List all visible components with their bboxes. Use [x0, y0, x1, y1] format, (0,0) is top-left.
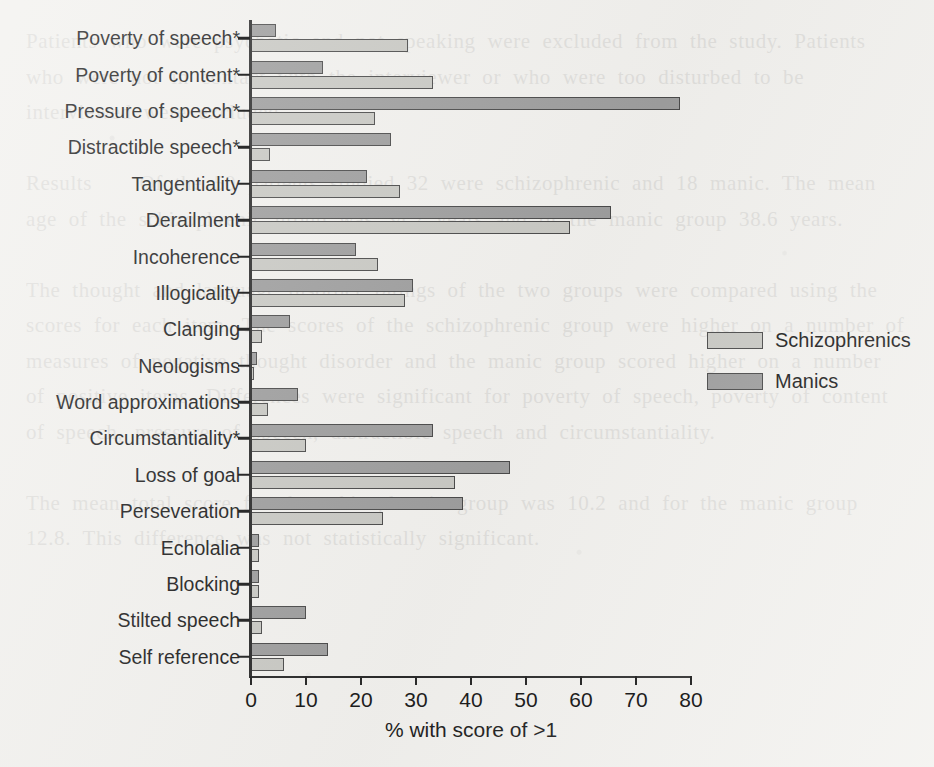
bar-schizophrenics — [251, 39, 408, 52]
x-axis-tick — [305, 676, 307, 685]
bar-manics — [251, 279, 413, 292]
bar-schizophrenics — [251, 76, 433, 89]
x-axis-tick-label: 80 — [679, 688, 702, 712]
y-axis-label: Self reference — [119, 645, 240, 668]
y-axis-tick — [238, 437, 250, 440]
y-axis-tick — [238, 364, 250, 367]
y-axis-tick — [238, 146, 250, 149]
bar-manics — [251, 461, 510, 474]
grouped-bar-chart: Poverty of speech*Poverty of content*Pre… — [0, 0, 934, 767]
bar-manics — [251, 534, 259, 547]
figure-page: Patients who were psychotic and not spea… — [0, 0, 934, 767]
y-axis-category-labels: Poverty of speech*Poverty of content*Pre… — [0, 0, 240, 767]
y-axis-label: Poverty of content* — [75, 63, 240, 86]
bar-schizophrenics — [251, 403, 268, 416]
y-axis-label: Derailment — [146, 209, 240, 232]
bar-manics — [251, 424, 433, 437]
y-axis-label: Circumstantiality* — [89, 427, 240, 450]
legend-label-schizophrenics: Schizophrenics — [775, 329, 911, 352]
bar-schizophrenics — [251, 185, 400, 198]
bar-schizophrenics — [251, 621, 262, 634]
bar-schizophrenics — [251, 258, 378, 271]
x-axis-tick — [470, 676, 472, 685]
y-axis-tick — [238, 73, 250, 76]
x-axis-tick — [525, 676, 527, 685]
y-axis-label: Loss of goal — [135, 463, 240, 486]
y-axis-tick — [238, 619, 250, 622]
y-axis-tick — [238, 183, 250, 186]
bar-manics — [251, 206, 611, 219]
bar-manics — [251, 497, 463, 510]
y-axis-tick — [238, 292, 250, 295]
x-axis-tick — [635, 676, 637, 685]
bar-schizophrenics — [251, 294, 405, 307]
legend-swatch-schizophrenics — [707, 332, 763, 349]
bar-manics — [251, 643, 328, 656]
legend-swatch-manics — [707, 373, 763, 390]
y-axis-tick — [238, 474, 250, 477]
bar-schizophrenics — [251, 658, 284, 671]
y-axis-label: Illogicality — [155, 281, 240, 304]
y-axis-tick — [238, 219, 250, 222]
y-axis-tick — [238, 583, 250, 586]
y-axis-label: Stilted speech — [118, 609, 241, 632]
bar-schizophrenics — [251, 476, 455, 489]
x-axis-tick-label: 0 — [245, 688, 257, 712]
bar-manics — [251, 170, 367, 183]
y-axis-label: Clanging — [163, 318, 240, 341]
bar-schizophrenics — [251, 221, 570, 234]
x-axis-tick — [415, 676, 417, 685]
x-axis-tick-label: 70 — [624, 688, 647, 712]
bar-schizophrenics — [251, 112, 375, 125]
y-axis-tick — [238, 37, 250, 40]
y-axis-tick — [238, 255, 250, 258]
x-axis-tick — [690, 676, 692, 685]
bar-schizophrenics — [251, 585, 259, 598]
bar-manics — [251, 243, 356, 256]
x-axis-tick-label: 40 — [459, 688, 482, 712]
bar-schizophrenics — [251, 512, 383, 525]
legend-item-schizophrenics: Schizophrenics — [707, 329, 911, 352]
plot-area — [251, 20, 691, 675]
y-axis-label: Word approximations — [56, 391, 240, 414]
y-axis-tick — [238, 656, 250, 659]
y-axis-label: Poverty of speech* — [76, 27, 240, 50]
bar-schizophrenics — [251, 148, 270, 161]
y-axis-label: Incoherence — [133, 245, 240, 268]
y-axis-tick — [238, 401, 250, 404]
y-axis-label: Distractible speech* — [68, 136, 240, 159]
bar-schizophrenics — [251, 549, 259, 562]
y-axis-label: Tangentiality — [132, 172, 240, 195]
y-axis-label: Pressure of speech* — [64, 99, 240, 122]
bar-schizophrenics — [251, 439, 306, 452]
x-axis-title: % with score of >1 — [251, 718, 691, 742]
y-axis-label: Echolalia — [161, 536, 240, 559]
x-axis-tick-label: 60 — [569, 688, 592, 712]
y-axis-tick — [238, 510, 250, 513]
y-axis-tick — [238, 110, 250, 113]
y-axis-label: Perseveration — [120, 500, 240, 523]
bar-manics — [251, 606, 306, 619]
bar-manics — [251, 24, 276, 37]
x-axis-tick — [360, 676, 362, 685]
bar-manics — [251, 570, 259, 583]
y-axis-tick — [238, 328, 250, 331]
chart-legend: Schizophrenics Manics — [707, 329, 911, 411]
x-axis-tick-label: 10 — [294, 688, 317, 712]
y-axis-label: Neologisms — [138, 354, 240, 377]
bar-manics — [251, 61, 323, 74]
x-axis-tick-label: 50 — [514, 688, 537, 712]
bar-schizophrenics — [251, 330, 262, 343]
y-axis-label: Blocking — [166, 573, 240, 596]
bar-manics — [251, 315, 290, 328]
x-axis-tick — [250, 676, 252, 685]
y-axis-line — [249, 20, 252, 678]
x-axis-tick-label: 20 — [349, 688, 372, 712]
bar-manics — [251, 97, 680, 110]
x-axis-tick-label: 30 — [404, 688, 427, 712]
bar-manics — [251, 388, 298, 401]
legend-item-manics: Manics — [707, 370, 911, 393]
x-axis-tick — [580, 676, 582, 685]
bar-manics — [251, 133, 391, 146]
y-axis-tick — [238, 546, 250, 549]
